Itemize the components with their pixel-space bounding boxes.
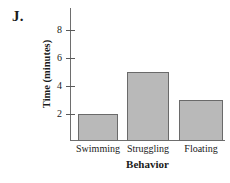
panel-letter: J. — [12, 9, 24, 24]
bar-floating — [179, 100, 223, 141]
bar-chart-figure: J. Time (minutes) 2468 SwimmingStrugglin… — [0, 0, 230, 183]
y-axis-line — [70, 8, 71, 141]
y-tick-8 — [66, 30, 75, 31]
bar-swimming — [78, 114, 118, 141]
bar-struggling — [127, 72, 169, 141]
x-tick-label-floating: Floating — [171, 143, 230, 155]
x-tick-label-swimming: Swimming — [70, 143, 126, 155]
y-tick-label-6: 6 — [42, 53, 62, 63]
y-tick-6 — [66, 58, 75, 59]
x-tick-label-struggling: Struggling — [119, 143, 177, 155]
x-axis-title: Behavior — [70, 158, 225, 171]
y-tick-label-2: 2 — [42, 109, 62, 119]
y-tick-4 — [66, 86, 75, 87]
y-tick-2 — [66, 114, 75, 115]
y-tick-label-8: 8 — [42, 25, 62, 35]
y-tick-label-4: 4 — [42, 81, 62, 91]
